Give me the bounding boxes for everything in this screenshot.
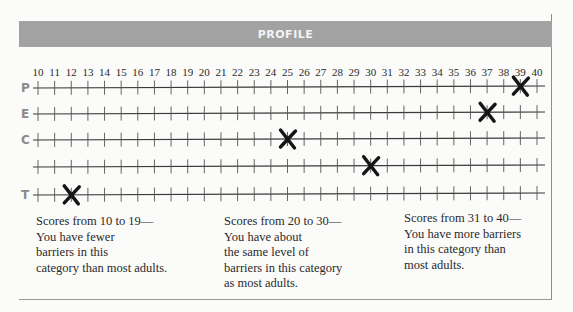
- note-low-scores: Scores from 10 to 19— You have fewer bar…: [36, 214, 167, 276]
- note-line: Scores from 10 to 19—: [36, 214, 167, 230]
- note-high-scores: Scores from 31 to 40— You have more barr…: [404, 211, 521, 273]
- row-label-t: T: [21, 188, 29, 202]
- score-row: [33, 130, 545, 148]
- note-line: category than most adults.: [36, 261, 167, 277]
- note-line: You have about: [224, 230, 342, 246]
- score-row: [33, 103, 545, 121]
- score-row: [33, 186, 545, 204]
- note-line: the same level of: [224, 245, 342, 261]
- note-line: barriers in this category: [224, 261, 342, 277]
- note-line: as most adults.: [224, 276, 342, 292]
- row-label-e: E: [21, 107, 29, 121]
- note-line: Scores from 31 to 40—: [404, 211, 521, 227]
- note-line: You have fewer: [36, 230, 167, 246]
- note-line: most adults.: [404, 258, 521, 274]
- note-line: Scores from 20 to 30—: [224, 214, 342, 230]
- note-line: barriers in this: [36, 245, 167, 261]
- note-line: in this category than: [404, 242, 521, 258]
- note-average-scores: Scores from 20 to 30— You have about the…: [224, 214, 342, 292]
- note-line: You have more barriers: [404, 227, 521, 243]
- score-row: [33, 77, 545, 95]
- row-label-c: C: [21, 133, 30, 147]
- score-row: [33, 157, 545, 175]
- row-label-p: P: [21, 81, 30, 95]
